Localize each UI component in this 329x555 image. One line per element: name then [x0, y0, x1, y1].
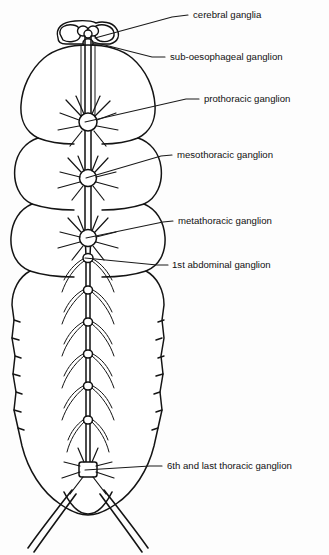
label-first-abdominal-ganglion: 1st abdominal ganglion — [172, 259, 271, 270]
labels-group: cerebral ganglia sub-oesophageal ganglio… — [167, 9, 292, 471]
label-prothoracic-ganglion: prothoracic ganglion — [204, 93, 290, 104]
body-outline-group — [11, 21, 165, 515]
label-cerebral-ganglia: cerebral ganglia — [193, 9, 262, 20]
label-sub-oesophageal-ganglion: sub-oesophageal ganglion — [170, 51, 283, 62]
cercus-left-outer — [28, 490, 72, 548]
nervous-system-figure: cerebral ganglia sub-oesophageal ganglio… — [0, 0, 329, 555]
label-metathoracic-ganglion: metathoracic ganglion — [178, 215, 272, 226]
cercus-right-outer — [104, 490, 148, 548]
label-mesothoracic-ganglion: mesothoracic ganglion — [177, 149, 273, 160]
label-sixth-and-last-thoracic-ganglion: 6th and last thoracic ganglion — [167, 460, 292, 471]
diagram-canvas: cerebral ganglia sub-oesophageal ganglio… — [0, 0, 329, 555]
